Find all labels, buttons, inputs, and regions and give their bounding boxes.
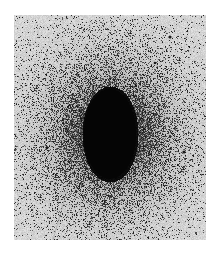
galaxy-photo <box>14 15 206 240</box>
galaxy-image-canvas <box>14 15 206 240</box>
